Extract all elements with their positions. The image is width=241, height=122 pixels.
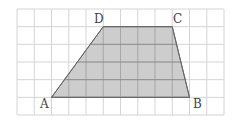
grid-diagram: A B C D (0, 0, 241, 122)
vertex-label-b: B (193, 97, 202, 111)
vertex-label-c: C (173, 12, 182, 26)
vertex-label-a: A (39, 97, 49, 111)
vertex-label-d: D (94, 12, 104, 26)
